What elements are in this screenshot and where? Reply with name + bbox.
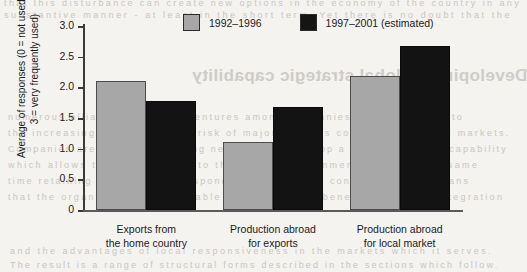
category-label-1: Exports fromthe home country bbox=[83, 222, 210, 250]
y-tick-label: 2.5 bbox=[59, 50, 74, 62]
x-axis-category-labels: Exports fromthe home countryProduction a… bbox=[83, 222, 463, 262]
bar-group-3-series-1 bbox=[350, 76, 400, 210]
y-tick-label: 2.0 bbox=[59, 80, 74, 92]
bar-group-1-series-2 bbox=[146, 101, 196, 210]
category-label-line: for exports bbox=[210, 236, 337, 250]
category-label-line: Exports from bbox=[83, 222, 210, 236]
bars-container bbox=[83, 26, 463, 210]
y-tick-label: 0.5 bbox=[59, 172, 74, 184]
y-tick-label: 1.5 bbox=[59, 111, 74, 123]
bar-group-3-series-2 bbox=[400, 46, 450, 210]
y-tick-label: 0 bbox=[68, 203, 74, 215]
bar-group-2-series-1 bbox=[223, 142, 273, 210]
bar-group-2-series-2 bbox=[273, 107, 323, 210]
category-label-line: for local market bbox=[336, 236, 463, 250]
y-tick-label: 3.0 bbox=[59, 19, 74, 31]
category-label-line: the home country bbox=[83, 236, 210, 250]
bar-group-1-series-1 bbox=[96, 81, 146, 210]
category-label-line: Production abroad bbox=[336, 222, 463, 236]
y-tick-label: 1.0 bbox=[59, 142, 74, 154]
category-label-line: Production abroad bbox=[210, 222, 337, 236]
category-label-2: Production abroadfor exports bbox=[210, 222, 337, 250]
y-axis-ticks: 3.02.52.01.51.00.50 bbox=[0, 26, 83, 210]
x-axis-line bbox=[83, 210, 463, 212]
category-label-3: Production abroadfor local market bbox=[336, 222, 463, 250]
